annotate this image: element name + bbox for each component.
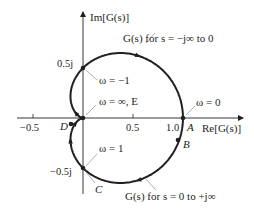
tick-label-neg-0-5: −0.5 xyxy=(20,122,39,133)
leader-lower-branch xyxy=(145,178,156,190)
leader-omega-neg1 xyxy=(86,70,97,80)
point-omega-neg1 xyxy=(81,66,86,71)
label-D: D xyxy=(59,120,68,132)
tick-label-0-5: 0.5 xyxy=(126,122,139,133)
point-A xyxy=(181,116,186,121)
tick-label-1-0: 1.0 xyxy=(166,122,179,133)
annotation-omega-inf: ω = ∞, E xyxy=(99,95,138,107)
point-C xyxy=(81,166,86,171)
annotation-lower-branch: G(s) for s = 0 to +j∞ xyxy=(125,190,216,203)
point-D xyxy=(69,122,74,127)
arrow-icon xyxy=(68,137,73,143)
point-E xyxy=(81,116,86,121)
annotation-upper-branch: G(s) for s = −j∞ to 0 xyxy=(123,32,214,45)
tick-label-neg-0-5j: −0.5j xyxy=(50,166,72,177)
annotation-omega-neg1: ω = −1 xyxy=(99,74,130,86)
nyquist-plot: Im[G(s)] Re[G(s)] −0.5 0.5 1.0 0.5j −0.5… xyxy=(0,0,254,212)
tick-label-0-5j: 0.5j xyxy=(57,58,73,69)
label-A: A xyxy=(186,121,194,133)
y-axis-label: Im[G(s)] xyxy=(90,11,129,24)
label-C: C xyxy=(95,183,103,195)
x-axis-label: Re[G(s)] xyxy=(202,122,241,135)
label-B: B xyxy=(183,138,190,150)
annotation-omega-0: ω = 0 xyxy=(196,96,221,108)
leader-omega-0 xyxy=(186,106,195,115)
annotation-omega-1: ω = 1 xyxy=(99,142,123,154)
leader-omega-inf xyxy=(86,105,96,115)
point-B xyxy=(176,138,181,143)
leader-omega-1 xyxy=(86,154,97,166)
